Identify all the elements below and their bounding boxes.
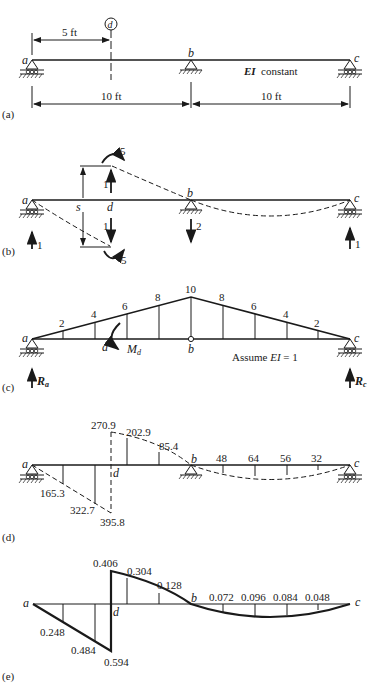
pin-support-b-icon xyxy=(179,200,202,214)
deflection-value: 322.7 xyxy=(70,504,95,516)
deflected-shape-middle xyxy=(111,432,191,465)
influence-value: 0.084 xyxy=(273,591,298,603)
diagram-canvas: 5 ft d a b c EI constant xyxy=(0,0,373,685)
influence-value: 0.072 xyxy=(209,591,234,603)
deflected-shape-right xyxy=(191,200,350,216)
influence-line-md xyxy=(33,571,350,651)
dim-label-5ft: 5 ft xyxy=(62,26,77,38)
point-d-label: d xyxy=(113,605,120,619)
deflection-value: 165.3 xyxy=(40,487,65,499)
moment-top-label: 5 xyxy=(120,145,126,157)
deflection-value: 56 xyxy=(280,452,292,464)
influence-value: 0.248 xyxy=(40,626,65,638)
force-top-label: 1 xyxy=(103,178,109,190)
pin-support-b-icon xyxy=(179,465,202,479)
panel-label-b: (b) xyxy=(2,245,15,258)
ordinate-label: 6 xyxy=(251,300,257,312)
moment-md-label: Md xyxy=(126,342,142,357)
point-b-label: b xyxy=(191,452,197,466)
point-d-label: d xyxy=(102,340,109,354)
deflection-value: 85.4 xyxy=(159,440,179,452)
point-a-label: a xyxy=(22,193,28,207)
ordinate-label: 6 xyxy=(122,300,128,312)
deflected-shape-middle xyxy=(112,166,191,200)
dim-label-right: 10 ft xyxy=(261,90,281,102)
point-a-label: a xyxy=(23,596,29,610)
ordinate-lines xyxy=(63,297,318,339)
deflection-value: 202.9 xyxy=(126,426,151,438)
point-d-label: d xyxy=(107,200,114,214)
ordinate-label: 2 xyxy=(314,317,320,329)
ordinate-label: 2 xyxy=(59,317,65,329)
deflected-shape-right xyxy=(191,465,350,480)
point-a-label: a xyxy=(22,331,28,345)
panel-b: a b c d s 1 1 5 5 xyxy=(2,145,362,266)
point-b-label: b xyxy=(187,186,193,200)
panel-label-d: (d) xyxy=(2,531,15,544)
panel-label-c: (c) xyxy=(2,381,15,394)
deflection-value: 270.9 xyxy=(91,419,116,431)
reaction-b-label: 2 xyxy=(196,220,202,232)
influence-value: 0.304 xyxy=(127,565,152,577)
hinge-b-icon xyxy=(188,336,193,341)
point-b-label: b xyxy=(188,342,194,356)
influence-value: 0.406 xyxy=(93,557,118,569)
ordinate-label: 8 xyxy=(219,291,225,303)
ordinate-label: 4 xyxy=(283,308,289,320)
point-d-label: d xyxy=(113,466,120,480)
pin-support-b-icon xyxy=(179,60,202,74)
panel-c: 2 4 6 8 10 8 6 4 2 a b c d Md Assume EI … xyxy=(2,283,367,394)
influence-value: 0.048 xyxy=(305,591,330,603)
panel-e: a b c d 0.248 0.484 0.594 0.406 0.304 0.… xyxy=(2,557,361,683)
point-a-label: a xyxy=(22,457,28,471)
moment-md-icon xyxy=(111,323,120,349)
ordinate-lines xyxy=(63,438,318,504)
ordinate-label: 4 xyxy=(91,308,97,320)
force-bottom-label: 1 xyxy=(103,220,109,232)
deflected-shape-left xyxy=(32,200,110,246)
influence-value: 0.594 xyxy=(104,656,129,668)
reaction-c-label: 1 xyxy=(355,238,361,250)
ordinate-lines xyxy=(63,578,318,641)
deflection-value: 32 xyxy=(311,452,322,464)
point-a-label: a xyxy=(22,53,28,67)
influence-value: 0.096 xyxy=(241,591,266,603)
deflection-value: 48 xyxy=(216,452,228,464)
ordinate-label: 8 xyxy=(155,291,161,303)
panel-d: a b c d 165.3 322.7 395.8 270.9 202.9 85… xyxy=(2,419,362,544)
ei-constant-label: constant xyxy=(261,65,298,77)
deflection-value: 64 xyxy=(248,452,260,464)
reaction-a-label: 1 xyxy=(37,239,43,251)
point-b-label: b xyxy=(188,46,194,60)
reaction-rc-label: Rc xyxy=(354,374,367,389)
s-label: s xyxy=(76,200,81,214)
point-b-label: b xyxy=(191,591,197,605)
panel-label-a: (a) xyxy=(2,108,15,121)
moment-bottom-label: 5 xyxy=(121,254,127,266)
influence-value: 0.484 xyxy=(71,644,96,656)
point-d-label: d xyxy=(108,19,114,30)
reaction-ra-label: Ra xyxy=(36,374,49,389)
point-c-label: c xyxy=(354,456,360,470)
point-c-label: c xyxy=(354,331,360,345)
point-c-label: c xyxy=(355,595,361,609)
panel-a: 5 ft d a b c EI constant xyxy=(2,18,362,121)
panel-label-e: (e) xyxy=(2,670,15,683)
ordinate-label: 10 xyxy=(185,283,197,295)
point-c-label: c xyxy=(354,51,360,65)
dim-label-left: 10 ft xyxy=(101,90,121,102)
ei-label: EI xyxy=(243,65,256,77)
point-c-label: c xyxy=(354,191,360,205)
assume-ei-note: Assume EI = 1 xyxy=(232,351,298,363)
deflection-value: 395.8 xyxy=(100,516,125,528)
influence-value: 0.128 xyxy=(157,579,182,591)
